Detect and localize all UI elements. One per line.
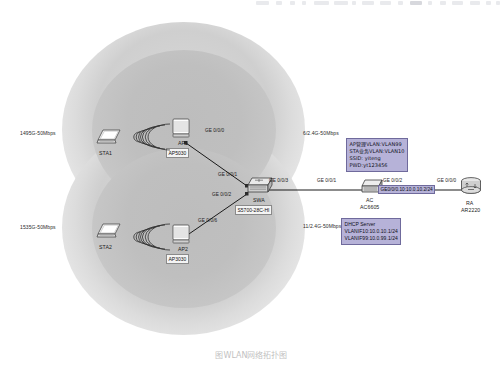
link-ip-label: GE0/0/0.10:10.0.10.2/24 <box>378 185 435 194</box>
device-sta1[interactable] <box>96 128 122 148</box>
device-label-ap2: AP2 <box>178 246 188 253</box>
device-ra[interactable] <box>459 176 483 198</box>
device-sta2[interactable] <box>96 222 122 242</box>
coverage-rate-top-right: 6/2.4G-50Mbps <box>303 130 339 136</box>
wireless-signal-ap1 <box>126 122 174 152</box>
note-dhcp-server: DHCP Server VLANIF10:10.0.10.1/24 VLANIF… <box>341 218 401 245</box>
port-label-swa-ge002: GE 0/0/2 <box>212 192 231 198</box>
port-label-swa-ge003: GE 0/0/3 <box>269 178 288 184</box>
device-model-swa: S5700-28C-HI <box>235 205 272 215</box>
device-label-ac: AC <box>366 197 373 204</box>
device-label-ap1: AP1 <box>178 140 188 147</box>
device-label-sta2: STA2 <box>99 244 112 251</box>
port-label-swa-ge001: GE 0/0/1 <box>218 172 237 178</box>
coverage-rate-bottom-right: 11/2.4G-50Mbps <box>303 223 341 229</box>
port-label-ac-ge001: GE 0/0/1 <box>317 178 336 184</box>
device-label-swa: SWA <box>253 197 265 204</box>
port-label-ra-ge000: GE 0/0/0 <box>437 178 456 184</box>
coverage-rate-bottom-left: 1535G-50Mbps <box>20 224 56 230</box>
port-label-ap1-ge000: GE 0/0/0 <box>205 128 224 134</box>
port-label-ac-ge002: GE 0/0/2 <box>383 178 402 184</box>
device-model-ac: AC6605 <box>360 204 379 211</box>
device-model-ap2: AP3030 <box>166 254 189 264</box>
device-label-sta1: STA1 <box>99 150 112 157</box>
wireless-signal-ap2 <box>126 222 174 252</box>
device-label-ra: RA <box>466 200 473 207</box>
figure-caption: 图WLAN网络拓扑图 <box>0 349 503 360</box>
coverage-rate-top-left: 1495G-50Mbps <box>20 130 56 136</box>
topology-canvas: STA1 AP1 AP5030 <box>0 0 503 369</box>
note-wlan-params: AP管理VLAN:VLAN99 STA业务VLAN:VLAN10 SSID: y… <box>346 138 408 172</box>
device-model-ra: AR2220 <box>461 207 480 214</box>
port-label-ap2-ge006: GE 0/0/6 <box>198 218 217 224</box>
